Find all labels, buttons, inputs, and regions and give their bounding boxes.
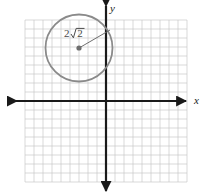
circle-center-point [76, 45, 81, 50]
radius-radicand-text: 2 [77, 27, 83, 39]
graph-canvas: 2 2 x y [0, 0, 203, 194]
y-axis-label: y [109, 2, 115, 14]
x-axis-label: x [193, 94, 199, 106]
radius-coefficient-text: 2 [64, 27, 70, 39]
coordinate-plane-figure: 2 2 x y [0, 0, 203, 194]
